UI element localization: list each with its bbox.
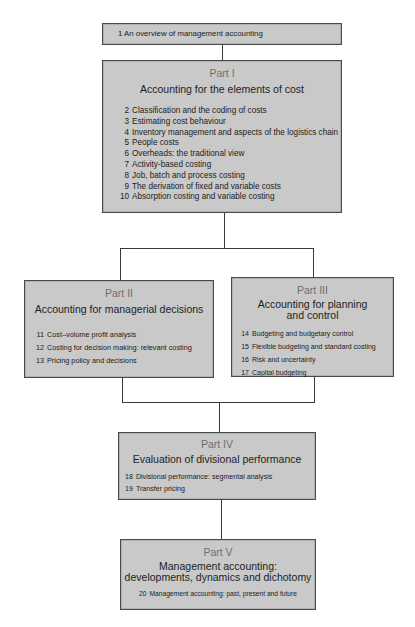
chapter-item: 10Absorption costing and variable costin… [115,192,341,203]
chapter-item: 16Risk and uncertainty [239,353,393,366]
chapter-title: An overview of management accounting [124,29,263,38]
chapter-list: 14Budgeting and budgetary control 15Flex… [239,327,393,379]
bracket-top-horizontal [120,248,314,249]
chapter-title: Estimating cost behaviour [132,117,226,126]
chapter-item: 8Job, batch and process costing [115,171,341,182]
part-label: Part IV [119,438,315,450]
chapter-title: Risk and uncertainty [252,356,315,363]
chapter-number: 6 [115,149,129,160]
chapter-list: 2Classification and the coding of costs … [115,106,341,203]
chapter-list: 20Management accounting: past, present a… [121,589,315,600]
chapter-title: Capital budgeting [252,369,307,376]
chapter-number: 2 [115,106,129,117]
part-title: Evaluation of divisional performance [119,454,315,465]
chapter-item: 6Overheads: the traditional view [115,149,341,160]
chapter-title: Management accounting: past, present and… [149,590,297,597]
chapter-number: 10 [115,192,129,203]
chapter-item: 3Estimating cost behaviour [115,117,341,128]
chapter-number: 15 [239,340,249,353]
chapter-item: 5People costs [115,138,341,149]
chapter-title: Budgeting and budgetary control [252,330,353,337]
part-label: Part V [121,546,315,558]
chapter-item: 4Inventory management and aspects of the… [115,128,341,139]
part-label: Part I [103,67,341,79]
chapter-item: 17Capital budgeting [239,366,393,379]
chapter-title: The derivation of fixed and variable cos… [132,182,281,191]
chapter-title: Absorption costing and variable costing [132,192,274,201]
connector-from-part3 [314,377,315,403]
chapter-item: 13Pricing policy and decisions [34,354,213,367]
part-title-line: developments, dynamics and dichotomy [121,572,315,583]
chapter-title: Cost–volume profit analysis [47,330,136,339]
chapter-title: Divisional performance: segmental analys… [136,473,272,481]
part-5-box: Part V Management accounting: developmen… [120,539,316,610]
chapter-item: 15Flexible budgeting and standard costin… [239,340,393,353]
chapter-title: Costing for decision making: relevant co… [47,343,192,352]
chapter-number: 13 [34,354,44,367]
chapter-number: 18 [125,471,133,483]
chapter-number: 8 [115,171,129,182]
chapter-number: 12 [34,341,44,354]
part-title: Accounting for the elements of cost [103,84,341,95]
part-4-box: Part IV Evaluation of divisional perform… [118,432,316,500]
connector-overview-part1 [222,45,223,60]
chapter-title: People costs [132,138,179,147]
part-label: Part II [25,287,213,299]
chapter-title: Overheads: the traditional view [132,149,244,158]
chapter-number: 20 [139,589,146,600]
part-title-line: and control [232,310,393,321]
chapter-number: 19 [125,483,133,495]
chapter-number: 7 [115,160,129,171]
connector-to-part3 [313,248,314,277]
connector-to-part4 [219,402,220,432]
chapter-number: 4 [115,128,129,139]
chapter-number: 3 [115,117,129,128]
chapter-number: 11 [34,328,44,341]
chapter-item: 14Budgeting and budgetary control [239,327,393,340]
chapter-title: Job, batch and process costing [132,171,245,180]
connector-from-part2 [122,378,123,403]
chapter-item: 11Cost–volume profit analysis [34,328,213,341]
chapter-title: Activity-based costing [132,160,211,169]
chapter-overview-box: 1 An overview of management accounting [102,23,342,45]
chapter-item: 18Divisional performance: segmental anal… [125,471,315,483]
chapter-title: Flexible budgeting and standard costing [252,343,376,350]
chapter-list: 11Cost–volume profit analysis 12Costing … [34,328,213,367]
chapter-item: 19Transfer pricing [125,483,315,495]
chapter-list: 18Divisional performance: segmental anal… [125,471,315,495]
connector-to-part2 [120,248,121,280]
chapter-title: Classification and the coding of costs [132,106,267,115]
chapter-title: Inventory management and aspects of the … [132,128,338,137]
part-1-box: Part I Accounting for the elements of co… [102,60,342,213]
chapter-item: 12Costing for decision making: relevant … [34,341,213,354]
part-label: Part III [232,284,393,296]
part-title: Management accounting: developments, dyn… [121,561,315,582]
chapter-title: Transfer pricing [136,485,185,493]
chapter-number: 17 [239,366,249,379]
part-title-line: Management accounting: [121,561,315,572]
part-3-box: Part III Accounting for planning and con… [231,277,394,377]
connector-part4-part5 [221,500,222,539]
chapter-number: 1 [118,29,122,38]
chapter-item: 2Classification and the coding of costs [115,106,341,117]
chapter-number: 16 [239,353,249,366]
part-title: Accounting for planning and control [232,299,393,321]
chapter-number: 14 [239,327,249,340]
chapter-title: Pricing policy and decisions [47,356,137,365]
connector-part1-down [224,213,225,248]
part-title: Accounting for managerial decisions [25,304,213,315]
part-2-box: Part II Accounting for managerial decisi… [24,280,214,378]
chapter-item: 7Activity-based costing [115,160,341,171]
chapter-item: 20Management accounting: past, present a… [121,589,315,600]
chapter-number: 5 [115,138,129,149]
chapter-item: 9The derivation of fixed and variable co… [115,182,341,193]
chapter-number: 9 [115,182,129,193]
